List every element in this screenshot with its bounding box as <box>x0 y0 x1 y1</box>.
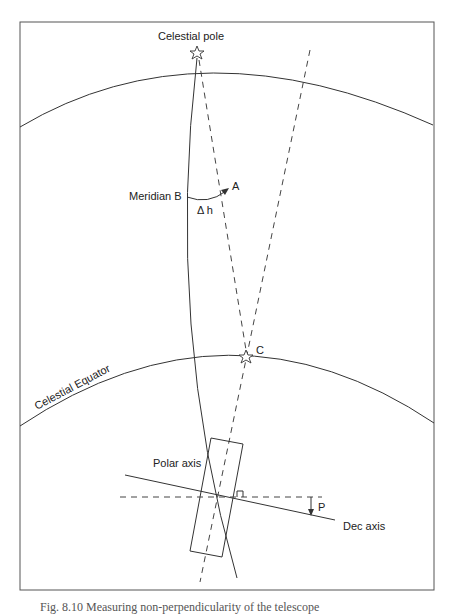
right-angle-marker <box>237 491 243 497</box>
star-outline-icon <box>190 46 204 59</box>
figure-frame <box>20 22 434 590</box>
celestial-equator-arc <box>20 355 434 426</box>
delta-h-label: Δ h <box>197 204 213 216</box>
diagram: Celestial pole Meridian B A Δ h C Celest… <box>0 0 454 615</box>
p-label: P <box>318 501 325 513</box>
meridian-b-label: Meridian B <box>129 190 182 202</box>
meridian-b-line <box>187 58 237 578</box>
dec-axis-label: Dec axis <box>343 520 386 532</box>
upper-arc <box>20 73 433 127</box>
polar-axis-label: Polar axis <box>153 457 202 469</box>
celestial-equator-label: Celestial Equator <box>32 362 112 412</box>
figure-caption: Fig. 8.10 Measuring non-perpendicularity… <box>40 600 420 615</box>
telescope-dashed-line <box>200 50 310 582</box>
star-outline-icon <box>239 350 253 363</box>
celestial-pole-label: Celestial pole <box>158 30 224 42</box>
point-a-label: A <box>232 180 240 192</box>
point-c-label: C <box>256 344 264 356</box>
